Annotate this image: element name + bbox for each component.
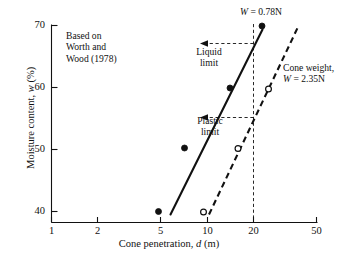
annotation-w-078: W = 0.78N bbox=[240, 7, 282, 18]
reference-note-line2: Worth and bbox=[66, 41, 117, 52]
reference-note-line3: Wood (1978) bbox=[66, 53, 117, 64]
y-axis-title-pre: Moisture content, bbox=[25, 92, 36, 169]
data-point-filled bbox=[182, 145, 188, 151]
x-tick-label-20: 20 bbox=[241, 225, 267, 237]
x-tick-label-50: 50 bbox=[304, 225, 330, 237]
annotation-cone-weight-symbol: W bbox=[283, 73, 291, 84]
data-point-open bbox=[201, 209, 207, 215]
annotation-cone-weight: Cone weight, W = 2.35N bbox=[283, 63, 334, 84]
y-axis-title: Moisture content, w (%) bbox=[25, 23, 37, 213]
reference-note: Based on Worth and Wood (1978) bbox=[66, 30, 117, 64]
data-point-filled bbox=[227, 85, 233, 91]
x-tick-label-2: 2 bbox=[85, 225, 111, 237]
chart-figure: 1 2 5 10 20 50 70 60 50 40 Cone penetrat… bbox=[0, 0, 338, 264]
y-axis-title-post: (%) bbox=[25, 67, 36, 85]
annotation-cone-weight-value: = 2.35N bbox=[291, 73, 325, 84]
reference-note-line1: Based on bbox=[66, 30, 117, 41]
annotation-w-078-value: = 0.78N bbox=[248, 6, 282, 17]
data-point-open bbox=[235, 146, 241, 152]
annotation-w-078-symbol: W bbox=[240, 6, 248, 17]
annotation-plastic-limit: Plastic limit bbox=[186, 116, 234, 137]
data-point-filled bbox=[259, 23, 265, 29]
x-axis-ticks bbox=[52, 217, 317, 223]
annotation-cone-weight-line2: W = 2.35N bbox=[283, 74, 334, 85]
annotation-liquid-limit-line2: limit bbox=[185, 58, 233, 69]
annotation-plastic-limit-line2: limit bbox=[186, 127, 234, 138]
x-tick-label-10: 10 bbox=[195, 225, 221, 237]
y-axis-ticks bbox=[52, 26, 58, 212]
x-axis-title-post: (m) bbox=[201, 238, 219, 249]
data-point-open bbox=[266, 86, 272, 92]
x-tick-label-1: 1 bbox=[39, 225, 65, 237]
data-point-filled bbox=[156, 209, 162, 215]
x-axis-title: Cone penetration, d (m) bbox=[0, 238, 338, 250]
x-tick-label-5: 5 bbox=[148, 225, 174, 237]
annotation-liquid-limit: Liquid limit bbox=[185, 47, 233, 68]
y-axis-title-symbol: w bbox=[25, 85, 36, 92]
x-axis-title-pre: Cone penetration, bbox=[119, 238, 196, 249]
